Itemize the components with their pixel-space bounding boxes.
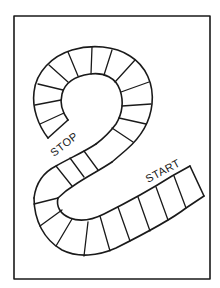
space-dividers-lower bbox=[34, 176, 186, 256]
board-frame bbox=[14, 16, 210, 279]
path-edge-middle-b bbox=[34, 144, 96, 198]
space-dividers-middle bbox=[56, 151, 98, 186]
path-outer-edge-lower bbox=[34, 196, 204, 255]
game-board: STOP START bbox=[0, 0, 220, 288]
space-dividers-upper bbox=[35, 47, 151, 142]
start-end-cap bbox=[190, 166, 204, 196]
path-outer-edge-upper bbox=[34, 47, 153, 162]
path-edge-middle-a bbox=[58, 162, 112, 198]
path-inner-edge-lower bbox=[58, 166, 191, 220]
